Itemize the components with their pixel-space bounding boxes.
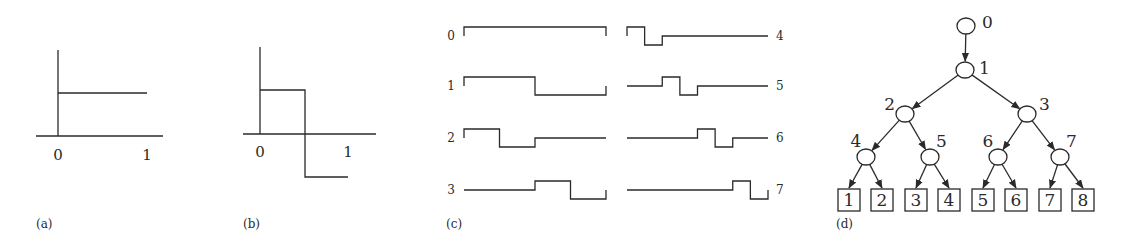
tree-leaf-label-8: 8 [1078,190,1089,210]
d-caption: (d) [836,217,853,231]
tree-node-7 [1051,149,1069,165]
a-tick-1: 1 [142,146,152,164]
tree-node-3 [1018,106,1036,122]
tree-node-label-7: 7 [1066,131,1077,151]
waveform-label-3: 3 [447,183,455,197]
waveform-6 [627,129,768,147]
tree-edge-0-1 [965,34,966,61]
tree-node-5 [921,149,939,165]
waveform-7 [627,181,768,199]
waveform-label-2: 2 [447,131,455,145]
tree-leaf-label-4: 4 [944,190,955,210]
waveform-0 [464,27,606,36]
tree-edge-1-3 [972,75,1020,109]
tree-node-label-3: 3 [1039,94,1050,114]
waveform-label-6: 6 [776,131,784,145]
a-caption: (a) [36,217,53,231]
waveform-label-1: 1 [447,79,455,93]
panel-b: 0 1 (b) [243,47,376,231]
tree-leaf-label-2: 2 [877,190,888,210]
tree-node-label-5: 5 [936,131,947,151]
tree-node-label-1: 1 [979,58,990,78]
panel-a: 0 1 (a) [36,50,163,231]
tree-edge-leaf-1 [849,164,862,188]
tree-leaf-label-1: 1 [844,190,855,210]
waveform-3 [464,181,606,199]
waveform-2 [464,129,606,147]
tree-node-label-2: 2 [884,94,895,114]
c-caption: (c) [446,217,462,231]
tree-node-2 [896,106,914,122]
b-caption: (b) [243,217,260,231]
waveform-label-4: 4 [776,29,784,43]
panel-c: (c) 01234567 [446,27,784,231]
tree-node-1 [956,62,974,78]
tree-edge-2-5 [909,121,925,149]
tree-node-4 [857,149,875,165]
tree-edge-leaf-7 [1050,165,1058,188]
waveform-label-5: 5 [776,79,784,93]
tree-leaf-label-5: 5 [978,190,989,210]
waveform-label-7: 7 [776,183,784,197]
tree-node-0 [957,18,975,34]
figure-canvas: 0 1 (a) 0 1 (b) (c) 01234567 (d) 0123456… [0,0,1132,248]
waveform-1 [464,77,606,95]
tree-edge-3-7 [1032,120,1055,150]
tree-edge-leaf-6 [1002,164,1016,188]
a-tick-0: 0 [53,146,63,164]
b-tick-0: 0 [255,143,265,161]
tree-node-label-0: 0 [982,12,993,32]
panel-d: (d) 0123456712345678 [836,12,1094,231]
tree-edge-leaf-3 [916,164,927,188]
tree-edge-2-4 [872,120,900,150]
tree-node-label-6: 6 [983,131,994,151]
tree-leaf-label-6: 6 [1011,190,1022,210]
b-tick-1: 1 [343,143,353,161]
tree-node-6 [989,149,1007,165]
tree-leaf-label-3: 3 [911,190,922,210]
waveform-5 [627,77,768,95]
tree-edge-leaf-5 [983,164,995,188]
tree-edge-3-6 [1003,121,1022,150]
tree-node-label-4: 4 [851,131,862,151]
waveform-label-0: 0 [447,29,455,43]
tree-edge-leaf-2 [870,164,882,188]
tree-leaf-label-7: 7 [1045,190,1056,210]
tree-edge-1-2 [912,75,958,109]
tree-edge-leaf-4 [934,164,949,188]
tree-edge-leaf-8 [1065,163,1083,188]
waveform-4 [627,27,768,45]
